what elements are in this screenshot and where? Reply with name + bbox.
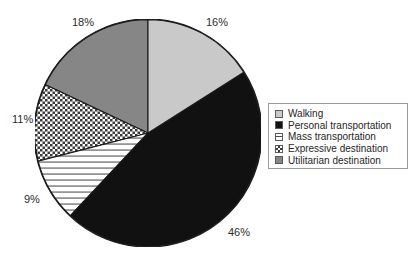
legend-item-walking: Walking	[275, 108, 407, 120]
chart-legend: Walking Personal transportation Mass tra…	[268, 103, 408, 169]
checker-dots-swatch-icon	[275, 145, 283, 153]
pie-svg	[35, 19, 261, 247]
pie-chart-figure: 16% 46% 9% 11% 18% Walking Personal tran…	[0, 0, 413, 260]
legend-item-expressive-destination: Expressive destination	[275, 143, 407, 155]
legend-label-personal-transportation: Personal transportation	[288, 120, 391, 131]
pie-label-mass-transportation: 9%	[24, 193, 40, 205]
legend-label-utilitarian-destination: Utilitarian destination	[288, 155, 381, 166]
pie-label-expressive-destination: 11%	[12, 113, 33, 125]
legend-item-utilitarian-destination: Utilitarian destination	[275, 154, 407, 166]
medium-gray-solid-swatch-icon	[275, 156, 283, 164]
pie-chart-graphic	[35, 19, 261, 247]
legend-item-mass-transportation: Mass transportation	[275, 131, 407, 143]
legend-label-mass-transportation: Mass transportation	[288, 131, 376, 142]
legend-label-walking: Walking	[288, 108, 323, 119]
pie-label-utilitarian-destination: 18%	[72, 16, 94, 28]
legend-label-expressive-destination: Expressive destination	[288, 143, 388, 154]
pie-label-walking: 16%	[206, 16, 228, 28]
black-solid-swatch-icon	[275, 121, 283, 129]
light-gray-solid-swatch-icon	[275, 110, 283, 118]
horizontal-lines-swatch-icon	[275, 133, 283, 141]
pie-label-personal-transportation: 46%	[228, 226, 250, 238]
legend-item-personal-transportation: Personal transportation	[275, 120, 407, 132]
